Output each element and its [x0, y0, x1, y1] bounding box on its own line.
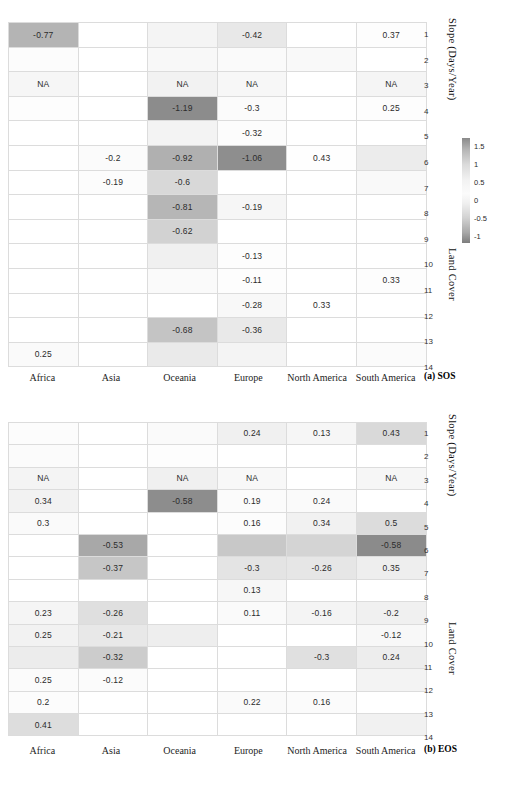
heatmap-cell [356, 47, 426, 72]
heatmap-cell: 0.37 [356, 23, 426, 48]
row-number-label: 11 [424, 278, 440, 304]
continent-label: Oceania [145, 372, 214, 383]
heatmap-row: -0.13 [9, 244, 427, 269]
row-number-label: 13 [424, 329, 440, 355]
heatmap-cell: -0.2 [78, 145, 148, 170]
row-number-label: 8 [424, 586, 440, 609]
heatmap-cell: -0.58 [356, 534, 426, 556]
heatmap-grid-eos: 0.240.130.43NANANANA0.34-0.580.190.240.3… [8, 422, 420, 736]
heatmap-cell: 0.13 [287, 423, 357, 445]
row-number-label: 1 [424, 22, 440, 48]
heatmap-cell [9, 557, 79, 579]
heatmap-row: 0.34-0.580.190.24 [9, 490, 427, 512]
heatmap-cell [356, 318, 426, 343]
heatmap-cell [148, 23, 218, 48]
heatmap-cell [9, 579, 79, 601]
heatmap-row: NANANANA [9, 467, 427, 489]
heatmap-cell: -0.68 [148, 318, 218, 343]
heatmap-cell [9, 121, 79, 146]
row-number-label: 10 [424, 633, 440, 656]
heatmap-row: -0.110.33 [9, 268, 427, 293]
heatmap-cell: -0.58 [148, 490, 218, 512]
heatmap-cell [287, 714, 357, 736]
heatmap-cell [217, 342, 287, 367]
heatmap-cell [287, 268, 357, 293]
continent-label: Africa [8, 745, 77, 756]
continent-axis-sos: AfricaAsiaOceaniaEuropeNorth AmericaSout… [8, 372, 420, 383]
heatmap-cell [78, 467, 148, 489]
heatmap-cell [356, 121, 426, 146]
heatmap-cell [287, 534, 357, 556]
heatmap-grid-sos: -0.77-0.420.37NANANANA-1.19-0.30.25-0.32… [8, 22, 420, 367]
heatmap-cell: -0.12 [356, 624, 426, 646]
heatmap-cell: 0.16 [287, 691, 357, 713]
continent-label: Africa [8, 372, 77, 383]
heatmap-cell: -0.19 [217, 195, 287, 220]
heatmap-cell: 0.24 [356, 646, 426, 668]
heatmap-cell [78, 219, 148, 244]
heatmap-cell: -0.3 [217, 557, 287, 579]
continent-label: North America [283, 372, 352, 383]
heatmap-table-sos: -0.77-0.420.37NANANANA-1.19-0.30.25-0.32… [8, 22, 427, 367]
heatmap-cell: 0.24 [217, 423, 287, 445]
heatmap-cell [217, 669, 287, 691]
heatmap-cell [356, 195, 426, 220]
continent-label: North America [283, 745, 352, 756]
heatmap-panel-eos: 0.240.130.43NANANANA0.34-0.580.190.240.3… [0, 400, 510, 809]
heatmap-cell [9, 244, 79, 269]
heatmap-cell [287, 244, 357, 269]
heatmap-row: -0.37-0.3-0.260.35 [9, 557, 427, 579]
heatmap-cell [9, 268, 79, 293]
heatmap-row: NANANANA [9, 72, 427, 97]
heatmap-cell [356, 170, 426, 195]
heatmap-cell [78, 293, 148, 318]
colorbar-tick-label: 1.5 [474, 142, 484, 151]
heatmap-cell [217, 534, 287, 556]
heatmap-row: -0.2-0.92-1.060.43 [9, 145, 427, 170]
heatmap-cell: 0.35 [356, 557, 426, 579]
heatmap-cell [287, 342, 357, 367]
heatmap-cell: 0.33 [287, 293, 357, 318]
heatmap-cell [356, 293, 426, 318]
heatmap-row: 0.25-0.12 [9, 669, 427, 691]
heatmap-cell [9, 646, 79, 668]
heatmap-row [9, 445, 427, 467]
heatmap-cell [78, 23, 148, 48]
heatmap-cell: NA [148, 72, 218, 97]
heatmap-cell [287, 72, 357, 97]
heatmap-cell: -0.6 [148, 170, 218, 195]
heatmap-cell [9, 293, 79, 318]
land-cover-axis-label-eos: Land Cover [447, 622, 458, 675]
heatmap-cell [78, 342, 148, 367]
continent-label: South America [351, 745, 420, 756]
continent-label: Asia [77, 745, 146, 756]
heatmap-cell [9, 170, 79, 195]
heatmap-cell [9, 219, 79, 244]
heatmap-row: 0.240.130.43 [9, 423, 427, 445]
heatmap-cell [287, 467, 357, 489]
continent-label: Europe [214, 745, 283, 756]
heatmap-cell [287, 47, 357, 72]
heatmap-cell [78, 445, 148, 467]
heatmap-cell: NA [217, 72, 287, 97]
row-number-label: 6 [424, 539, 440, 562]
heatmap-cell [217, 646, 287, 668]
heatmap-cell: 0.41 [9, 714, 79, 736]
heatmap-cell [78, 512, 148, 534]
continent-label: Europe [214, 372, 283, 383]
heatmap-cell [287, 219, 357, 244]
heatmap-row [9, 47, 427, 72]
colorbar-tick-label: 0 [474, 196, 478, 205]
heatmap-cell: -0.19 [78, 170, 148, 195]
heatmap-cell [78, 423, 148, 445]
heatmap-cell [287, 624, 357, 646]
heatmap-cell [9, 195, 79, 220]
heatmap-cell [217, 445, 287, 467]
row-number-label: 9 [424, 609, 440, 632]
heatmap-cell [356, 145, 426, 170]
heatmap-cell [287, 669, 357, 691]
heatmap-row: 0.25-0.21-0.12 [9, 624, 427, 646]
heatmap-cell: NA [356, 467, 426, 489]
heatmap-cell: -0.3 [217, 96, 287, 121]
heatmap-cell: 0.24 [287, 490, 357, 512]
